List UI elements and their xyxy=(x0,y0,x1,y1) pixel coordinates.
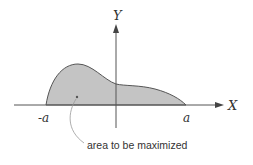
x-axis-label: X xyxy=(227,98,238,113)
tick-label-neg-a: -a xyxy=(38,111,49,125)
annotation-text: area to be maximized xyxy=(87,139,188,151)
pointer-dot xyxy=(76,96,78,98)
tick-label-a: a xyxy=(183,111,190,125)
diagram-canvas: Y X -a a area to be maximized xyxy=(0,0,253,165)
pointer-leader xyxy=(70,99,84,143)
x-axis-arrow-icon xyxy=(215,102,224,108)
y-axis-arrow-icon xyxy=(113,24,119,33)
y-axis-label: Y xyxy=(113,8,123,23)
